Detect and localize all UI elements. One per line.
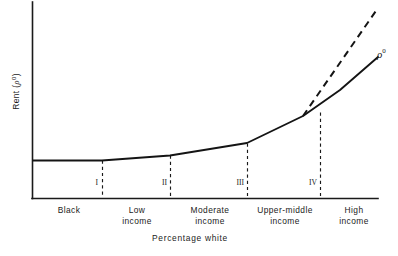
x-axis-label: Percentage white bbox=[120, 233, 260, 244]
category-label-high-income: High income bbox=[326, 205, 382, 228]
category-label-moderate-income: Moderate income bbox=[176, 205, 244, 228]
y-axis-label-rho: ρ bbox=[12, 80, 21, 84]
category-black-line1: Black bbox=[40, 205, 98, 216]
marker-label-iii: III bbox=[228, 178, 244, 187]
category-moderate-line2: income bbox=[176, 216, 244, 227]
y-axis-label-text: Rent ( bbox=[11, 84, 21, 109]
category-high-line1: High bbox=[326, 205, 382, 216]
category-high-line2: income bbox=[326, 216, 382, 227]
rent-percentage-white-figure: Rent (ρ0) Percentage white I II III IV B… bbox=[0, 0, 398, 256]
y-axis-label: Rent (ρ0) bbox=[11, 54, 22, 128]
curve-label-rho-zero: ρ0 bbox=[377, 47, 386, 60]
category-label-low-income: Low income bbox=[108, 205, 166, 228]
marker-label-iv: IV bbox=[302, 178, 317, 187]
category-moderate-line1: Moderate bbox=[176, 205, 244, 216]
category-low-line2: income bbox=[108, 216, 166, 227]
extrapolation-dashed-line bbox=[303, 8, 378, 116]
marker-label-i: I bbox=[86, 178, 98, 187]
category-label-black: Black bbox=[40, 205, 98, 216]
curve-label-superscript: 0 bbox=[382, 47, 386, 55]
category-label-upper-middle-income: Upper-middle income bbox=[250, 205, 320, 228]
category-upper-middle-line2: income bbox=[250, 216, 320, 227]
rent-curve-solid bbox=[33, 57, 378, 161]
y-axis-label-superscript: 0 bbox=[11, 76, 17, 80]
marker-label-ii: II bbox=[153, 178, 167, 187]
category-upper-middle-line1: Upper-middle bbox=[250, 205, 320, 216]
category-low-line1: Low bbox=[108, 205, 166, 216]
y-axis-label-close: ) bbox=[11, 73, 21, 76]
